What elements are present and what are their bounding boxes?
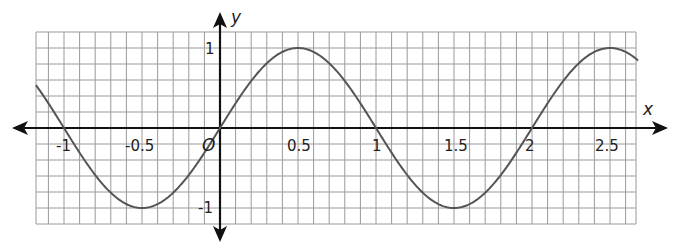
x-tick-label: -1 [56, 137, 71, 155]
x-tick-label: 2.5 [595, 137, 619, 155]
x-tick-label: -0.5 [125, 137, 154, 155]
origin-label: O [202, 135, 215, 155]
x-tick-label: 2 [525, 137, 535, 155]
x-axis-label: x [642, 99, 654, 119]
y-tick-label: -1 [198, 199, 213, 217]
y-axis-label: y [230, 7, 242, 27]
sine-graph: x y O -1 -0.5 0.5 1 1.5 2 2.5 1 -1 [0, 0, 679, 246]
x-tick-label: 1 [372, 137, 382, 155]
x-tick-label: 1.5 [444, 137, 468, 155]
x-tick-label: 0.5 [287, 137, 311, 155]
y-tick-label: 1 [205, 40, 215, 58]
